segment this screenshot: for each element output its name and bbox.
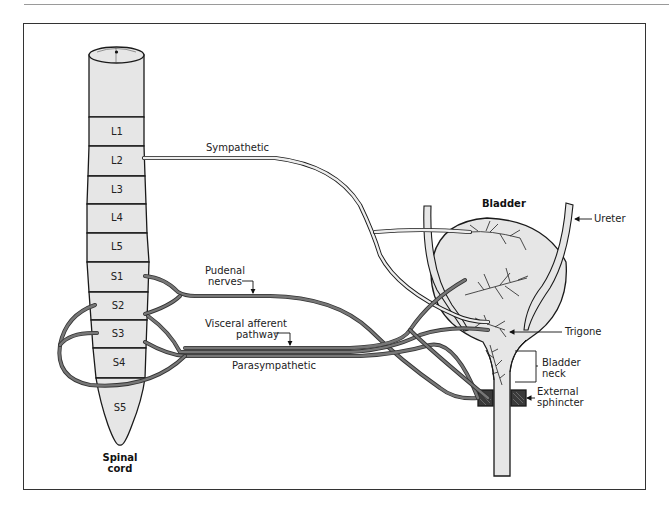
label-bladder-neck-2: neck (542, 368, 566, 379)
label-pudenal-2: nerves (208, 276, 242, 287)
pudenal-pointer (242, 281, 253, 293)
segment-s5: S5 (114, 402, 127, 413)
pudendal-nerve (145, 276, 478, 398)
label-sympathetic: Sympathetic (206, 142, 269, 153)
spinal-cord-label-2: cord (108, 463, 133, 474)
diagram-canvas: L1 L2 L3 L4 L5 S1 S2 S3 S4 S5 Spinal cor… (0, 0, 669, 513)
label-ureter: Ureter (594, 213, 626, 224)
label-external-sphincter-2: sphincter (537, 397, 585, 408)
label-visceral-2: pathway (236, 329, 279, 340)
label-parasympathetic: Parasympathetic (232, 360, 316, 371)
label-trigone: Trigone (564, 326, 601, 337)
label-bladder-neck-1: Bladder (542, 357, 582, 368)
bladder-neck-bracket (515, 351, 538, 382)
label-pudenal-1: Pudenal (205, 265, 245, 276)
segment-l3: L3 (111, 184, 123, 195)
label-visceral-1: Visceral afferent (205, 318, 287, 329)
segment-s4: S4 (113, 357, 126, 368)
spinal-cord-label-1: Spinal (102, 452, 137, 463)
segment-s1: S1 (111, 271, 124, 282)
segment-s2: S2 (112, 300, 125, 311)
segment-l4: L4 (111, 212, 123, 223)
segment-l2: L2 (111, 155, 123, 166)
segment-l5: L5 (111, 241, 123, 252)
label-bladder: Bladder (482, 198, 526, 209)
segment-l1: L1 (111, 126, 123, 137)
label-external-sphincter-1: External (537, 386, 579, 397)
segment-s3: S3 (112, 328, 125, 339)
